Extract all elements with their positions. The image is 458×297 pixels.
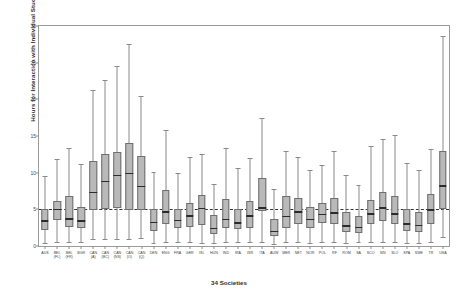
box-iqr bbox=[174, 209, 181, 228]
lower-whisker bbox=[213, 234, 214, 244]
box-plot-pol bbox=[316, 26, 328, 246]
boxplot-figure: Hours for Interaction with Individual St… bbox=[0, 0, 458, 297]
x-tick-label: HUN bbox=[210, 251, 218, 255]
lower-whisker-cap bbox=[211, 243, 216, 244]
upper-whisker bbox=[213, 184, 214, 216]
box-plot-sin bbox=[377, 26, 389, 246]
x-tick-label: SWE bbox=[415, 251, 423, 255]
median-line bbox=[295, 211, 302, 213]
box-iqr bbox=[234, 209, 241, 229]
x-tick-label-line1: IRA bbox=[235, 251, 241, 255]
plot-area: 051015202530AUSBEL(FL)BEL(FR)BGRCAN(A)CA… bbox=[38, 25, 450, 247]
y-axis-title: Hours for Interaction with Individual St… bbox=[29, 0, 36, 144]
box-iqr bbox=[198, 195, 205, 226]
x-tick-mark bbox=[129, 246, 130, 249]
lower-whisker bbox=[105, 209, 106, 239]
x-tick-label: BGR bbox=[77, 251, 85, 255]
upper-whisker bbox=[310, 170, 311, 207]
upper-whisker-cap bbox=[235, 168, 240, 169]
box-plot-usa bbox=[437, 26, 449, 246]
box-iqr bbox=[138, 156, 145, 210]
box-iqr bbox=[210, 215, 217, 233]
x-tick-label-line1: GER bbox=[186, 251, 194, 255]
box-iqr bbox=[126, 143, 133, 210]
box-plot-bgr bbox=[75, 26, 87, 246]
median-line bbox=[307, 219, 314, 221]
box-plot-net bbox=[292, 26, 304, 246]
box-plot-isr bbox=[244, 26, 256, 246]
upper-whisker bbox=[225, 148, 226, 199]
lower-whisker-cap bbox=[356, 242, 361, 243]
lower-whisker bbox=[93, 210, 94, 239]
upper-whisker bbox=[382, 139, 383, 192]
box-plot-dnk bbox=[148, 26, 160, 246]
box-plot-can-bc- bbox=[99, 26, 111, 246]
box-iqr bbox=[415, 212, 422, 232]
x-tick-label: DEN bbox=[150, 251, 158, 255]
x-tick-label: CAN(Q) bbox=[138, 251, 146, 260]
median-line bbox=[150, 222, 157, 224]
median-line bbox=[246, 215, 253, 217]
lower-whisker-cap bbox=[308, 243, 313, 244]
lower-whisker bbox=[382, 221, 383, 242]
upper-whisker bbox=[69, 148, 70, 196]
lower-whisker bbox=[81, 228, 82, 242]
lower-whisker-cap bbox=[127, 239, 132, 240]
x-tick-mark bbox=[93, 246, 94, 249]
x-tick-mark bbox=[250, 246, 251, 249]
box-plot-can-qc- bbox=[135, 26, 147, 246]
upper-whisker-cap bbox=[416, 170, 421, 171]
x-tick-label: CAN(O) bbox=[126, 251, 134, 260]
box-iqr bbox=[114, 152, 121, 208]
lower-whisker-cap bbox=[344, 243, 349, 244]
upper-whisker-cap bbox=[223, 148, 228, 149]
upper-whisker bbox=[81, 164, 82, 207]
x-tick-label: MER bbox=[282, 251, 290, 255]
median-line bbox=[427, 209, 434, 211]
upper-whisker bbox=[45, 176, 46, 209]
lower-whisker bbox=[45, 230, 46, 243]
lower-whisker-cap bbox=[272, 244, 277, 245]
lower-whisker bbox=[346, 232, 347, 243]
median-line bbox=[114, 175, 121, 177]
x-tick-label: SA bbox=[356, 251, 361, 255]
upper-whisker bbox=[105, 80, 106, 154]
x-tick-label-line2: (A) bbox=[89, 255, 97, 259]
box-iqr bbox=[343, 212, 350, 232]
x-tick-label: GER bbox=[186, 251, 194, 255]
upper-whisker-cap bbox=[356, 185, 361, 186]
x-tick-label: NET bbox=[295, 251, 302, 255]
x-tick-mark bbox=[81, 246, 82, 249]
box-plot-slo bbox=[389, 26, 401, 246]
upper-whisker-cap bbox=[260, 118, 265, 119]
box-plot-bel-fr- bbox=[63, 26, 75, 246]
lower-whisker-cap bbox=[67, 242, 72, 243]
lower-whisker bbox=[69, 227, 70, 242]
x-tick-label: IRA bbox=[235, 251, 241, 255]
x-tick-mark bbox=[382, 246, 383, 249]
lower-whisker bbox=[418, 232, 419, 243]
lower-whisker-cap bbox=[320, 242, 325, 243]
upper-whisker bbox=[346, 175, 347, 212]
y-tick-label: 20 bbox=[30, 96, 39, 102]
lower-whisker-cap bbox=[199, 243, 204, 244]
x-tick-label: ENG bbox=[162, 251, 170, 255]
x-tick-mark bbox=[165, 246, 166, 249]
box-plot-ita bbox=[256, 26, 268, 246]
upper-whisker bbox=[153, 172, 154, 209]
upper-whisker-cap bbox=[103, 80, 108, 81]
lower-whisker-cap bbox=[284, 242, 289, 243]
x-tick-label-line1: FRA bbox=[174, 251, 181, 255]
upper-whisker-cap bbox=[139, 96, 144, 97]
box-iqr bbox=[65, 196, 72, 227]
x-tick-mark bbox=[225, 246, 226, 249]
upper-whisker bbox=[298, 157, 299, 198]
x-tick-label: SCO bbox=[367, 251, 375, 255]
box-plot-bel-fl- bbox=[51, 26, 63, 246]
box-plot-swe bbox=[413, 26, 425, 246]
upper-whisker-cap bbox=[332, 151, 337, 152]
median-line bbox=[198, 208, 205, 210]
lower-whisker bbox=[141, 210, 142, 238]
x-tick-label: ROM bbox=[342, 251, 350, 255]
lower-whisker-cap bbox=[368, 242, 373, 243]
